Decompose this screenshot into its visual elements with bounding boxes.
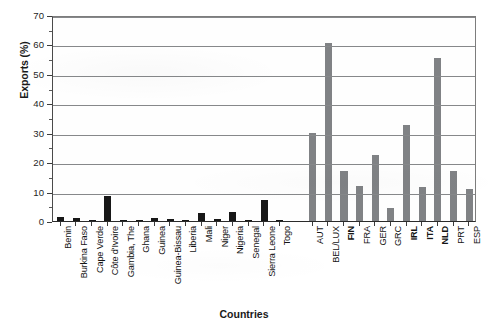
bar bbox=[419, 187, 426, 221]
y-axis-tick bbox=[47, 75, 52, 76]
y-axis-tick-label: 70 bbox=[16, 10, 44, 21]
x-axis-tick-label: Senegal bbox=[251, 226, 261, 259]
y-axis-minor-tick bbox=[49, 60, 52, 61]
bar bbox=[356, 186, 363, 221]
x-axis-tick-label: FIN bbox=[346, 226, 356, 240]
x-axis-title: Countries bbox=[0, 308, 488, 320]
y-axis-minor-tick bbox=[49, 31, 52, 32]
y-axis-tick bbox=[47, 193, 52, 194]
y-axis-minor-tick bbox=[49, 207, 52, 208]
x-axis-tick-label: Mali bbox=[204, 226, 214, 242]
x-axis-tick-label: GER bbox=[378, 226, 388, 245]
y-axis-minor-tick bbox=[49, 148, 52, 149]
bar bbox=[198, 213, 205, 221]
x-axis-tick-label: Côte d'Ivoire bbox=[110, 226, 120, 275]
bar-chart: Exports (%) 010203040506070 BeninBurkina… bbox=[0, 0, 488, 332]
bar bbox=[229, 212, 236, 221]
y-axis-tick-label: 60 bbox=[16, 39, 44, 50]
bar bbox=[403, 125, 410, 221]
bar bbox=[245, 220, 252, 221]
bar bbox=[120, 220, 127, 221]
plot-area bbox=[52, 16, 476, 222]
gridline bbox=[53, 135, 475, 136]
bar bbox=[136, 220, 143, 221]
bar bbox=[214, 219, 221, 221]
y-axis-tick-label: 20 bbox=[16, 157, 44, 168]
x-axis-tick-label: FRA bbox=[362, 226, 372, 244]
x-axis-tick-label: BEL/LUX bbox=[331, 226, 341, 263]
x-axis-tick-label: AUT bbox=[315, 226, 325, 244]
bar bbox=[276, 220, 283, 221]
bar bbox=[182, 220, 189, 221]
x-axis-tick-label: IRL bbox=[409, 226, 419, 240]
gridline bbox=[53, 76, 475, 77]
x-axis-tick-label: Gambia, The bbox=[126, 226, 136, 277]
bar bbox=[340, 171, 347, 221]
x-axis-tick-label: Guinea-Bissau bbox=[173, 226, 183, 284]
x-axis-tick-label: NLD bbox=[440, 226, 450, 244]
x-axis-tick-label: GRC bbox=[393, 226, 403, 246]
y-axis-tick-label: 0 bbox=[16, 216, 44, 227]
y-axis-tick bbox=[47, 45, 52, 46]
y-axis-tick bbox=[47, 222, 52, 223]
bar bbox=[261, 200, 268, 221]
bar bbox=[104, 196, 111, 221]
x-axis-tick-label: Togo bbox=[282, 226, 292, 245]
y-axis-tick-label: 40 bbox=[16, 98, 44, 109]
y-axis-minor-tick bbox=[49, 119, 52, 120]
x-axis-tick-label: ESP bbox=[472, 226, 482, 244]
y-axis-tick-label: 50 bbox=[16, 69, 44, 80]
bar bbox=[387, 208, 394, 221]
gridline bbox=[53, 105, 475, 106]
x-axis-tick-label: Benin bbox=[63, 226, 73, 249]
bar bbox=[309, 133, 316, 221]
x-axis-tick-label: ITA bbox=[425, 226, 435, 240]
y-axis-minor-tick bbox=[49, 90, 52, 91]
bar bbox=[434, 58, 441, 221]
x-axis-tick-label: Cape Verde bbox=[95, 226, 105, 273]
bar bbox=[89, 220, 96, 221]
bar-series-container bbox=[53, 17, 475, 221]
x-axis-tick-label: Nigeria bbox=[235, 226, 245, 254]
x-axis-tick-label: Ghana bbox=[141, 226, 151, 253]
y-axis-minor-tick bbox=[49, 178, 52, 179]
x-axis-tick-label: Liberia bbox=[188, 226, 198, 253]
gridline bbox=[53, 17, 475, 18]
x-axis-tick-label: Guinea bbox=[157, 226, 167, 255]
gridline bbox=[53, 46, 475, 47]
y-axis-tick bbox=[47, 104, 52, 105]
y-axis-tick bbox=[47, 134, 52, 135]
bar bbox=[450, 171, 457, 221]
y-axis-tick-label: 30 bbox=[16, 128, 44, 139]
gridline bbox=[53, 164, 475, 165]
y-axis-tick bbox=[47, 163, 52, 164]
bar bbox=[167, 219, 174, 221]
gridline bbox=[53, 194, 475, 195]
x-axis-tick-label: Niger bbox=[220, 226, 230, 247]
y-axis-tick-label: 10 bbox=[16, 187, 44, 198]
x-axis-tick-labels: BeninBurkina FasoCape VerdeCôte d'Ivoire… bbox=[52, 226, 476, 306]
x-axis-tick-label: Sierra Leone bbox=[267, 226, 277, 277]
bar bbox=[73, 218, 80, 221]
bar bbox=[57, 217, 64, 221]
y-axis-tick bbox=[47, 16, 52, 17]
bar bbox=[151, 218, 158, 221]
x-axis-tick-label: Burkina Faso bbox=[79, 226, 89, 278]
x-axis-tick-label: PRT bbox=[456, 226, 466, 244]
